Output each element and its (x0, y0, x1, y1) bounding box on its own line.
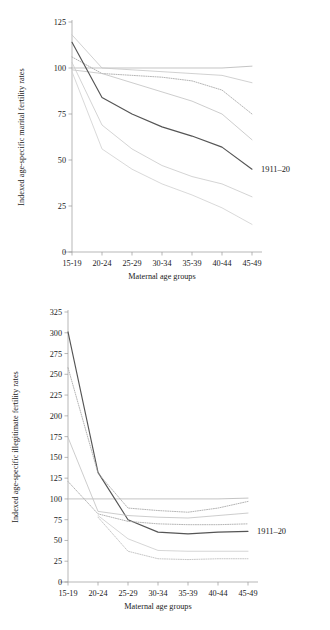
series-line-cohort-d (72, 62, 252, 196)
y-tick-label: 175 (50, 433, 62, 442)
chart-illegitimate-fertility: 025507510012515017520022525027530032515-… (0, 300, 330, 630)
y-tick-label: 300 (50, 329, 62, 338)
y-tick-label: 100 (54, 64, 66, 73)
series-line-baseline-flat (72, 66, 252, 68)
x-tick-label: 35-39 (178, 589, 197, 598)
chart-marital-fertility: 025507510012515-1920-2425-2930-3435-3940… (0, 0, 330, 300)
series-line-cohort-e (98, 517, 248, 559)
y-tick-label: 0 (62, 248, 66, 257)
y-tick-label: 125 (54, 18, 66, 27)
series-line-cohort-c (72, 70, 252, 140)
series-line-cohort-b (72, 57, 252, 114)
x-tick-label: 40-44 (212, 259, 231, 268)
y-tick-label: 25 (54, 557, 62, 566)
x-tick-label: 25-29 (118, 589, 137, 598)
y-tick-label: 75 (58, 110, 66, 119)
x-tick-label: 30-34 (148, 589, 167, 598)
y-tick-label: 75 (54, 516, 62, 525)
y-tick-label: 275 (50, 350, 62, 359)
y-tick-label: 125 (50, 474, 62, 483)
y-axis-title: Indexed age-specific marital fertility r… (17, 68, 26, 205)
x-axis-title: Maternal age groups (124, 602, 191, 611)
series-annotation-1911-20: 1911–20 (257, 527, 286, 536)
y-tick-label: 0 (58, 578, 62, 587)
x-axis-title: Maternal age groups (128, 272, 195, 281)
x-tick-label: 35-39 (182, 259, 201, 268)
y-tick-label: 200 (50, 412, 62, 421)
x-tick-label: 15-19 (58, 589, 77, 598)
series-line-cohort-e (72, 72, 252, 225)
x-tick-label: 25-29 (122, 259, 141, 268)
x-tick-label: 30-34 (152, 259, 171, 268)
y-tick-label: 325 (50, 308, 62, 317)
y-tick-label: 250 (50, 370, 62, 379)
plot-area-illegitimate-fertility: 025507510012515017520022525027530032515-… (0, 300, 330, 630)
x-tick-label: 45-49 (238, 589, 257, 598)
series-annotation-1911-20: 1911–20 (261, 165, 290, 174)
y-tick-label: 50 (54, 536, 62, 545)
series-line-baseline-flat (68, 498, 248, 499)
y-tick-label: 100 (50, 495, 62, 504)
x-tick-label: 40-44 (208, 589, 227, 598)
x-tick-label: 15-19 (62, 259, 81, 268)
x-tick-label: 45-49 (242, 259, 261, 268)
series-line-cohort-a (72, 35, 252, 83)
x-tick-label: 20-24 (88, 589, 107, 598)
y-tick-label: 50 (58, 156, 66, 165)
y-tick-label: 150 (50, 453, 62, 462)
series-line-cohort-a (68, 368, 248, 513)
x-tick-label: 20-24 (92, 259, 111, 268)
series-line-cohort-1911-20 (72, 42, 252, 169)
series-line-cohort-b (68, 437, 248, 518)
y-tick-label: 225 (50, 391, 62, 400)
y-tick-label: 25 (58, 202, 66, 211)
y-axis-title: Indexed age-specific illegitimate fertil… (11, 371, 20, 522)
plot-area-marital-fertility: 025507510012515-1920-2425-2930-3435-3940… (0, 0, 330, 300)
